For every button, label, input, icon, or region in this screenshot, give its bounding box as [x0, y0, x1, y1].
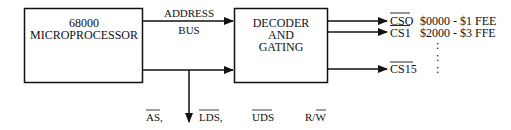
rw-label: R/W — [305, 111, 326, 123]
block-diagram: 68000 MICROPROCESSOR ADDRESS BUS DECODER… — [0, 0, 511, 130]
signal-uds: UDS — [252, 110, 274, 123]
cpu-block: 68000 MICROPROCESSOR — [25, 9, 143, 83]
decoder-block: DECODER AND GATING — [235, 9, 328, 83]
bus-label-line2: BUS — [178, 24, 199, 36]
cs15-signal: CS15 — [390, 62, 417, 76]
signal-lds: LDS, — [199, 110, 223, 123]
signal-rw: R/W — [305, 110, 326, 123]
cs15-range: : — [436, 62, 439, 76]
output-cs1: CS1 $2000 - $3 FFE — [390, 26, 496, 41]
signal-as: AS, — [146, 110, 163, 123]
cpu-label-line2: MICROPROCESSOR — [30, 28, 138, 42]
uds-label: UDS — [252, 111, 274, 123]
cs1-range: $2000 - $3 FFE — [420, 26, 496, 40]
cs1-signal: CS1 — [390, 26, 411, 40]
lds-label: LDS, — [199, 111, 223, 123]
decoder-label-line3: GATING — [259, 40, 304, 54]
bus-label-line1: ADDRESS — [164, 7, 214, 19]
output-cs15: CS15 : — [390, 62, 439, 76]
as-label: AS, — [146, 111, 163, 123]
